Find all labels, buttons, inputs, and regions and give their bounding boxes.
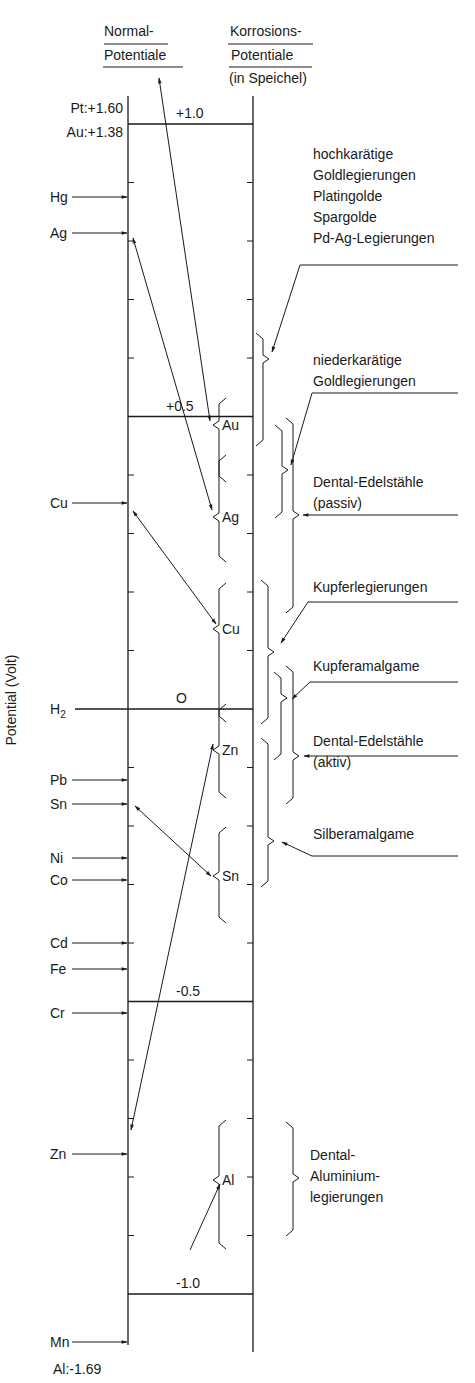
alloy-group-label: Dental- xyxy=(310,1147,355,1163)
scale-label: -1.0 xyxy=(176,1275,200,1291)
element-label-zn: Zn xyxy=(50,1146,66,1162)
element-label-h2: H2 xyxy=(50,701,66,720)
element-label-co: Co xyxy=(50,872,68,888)
leader-silberamalgame xyxy=(282,842,458,856)
header-normal-potentiale: Normal- Potentiale xyxy=(103,23,183,67)
connection-ag xyxy=(133,238,212,510)
alloy-group-label: Dental-Edelstähle xyxy=(313,474,424,490)
brace-alloy-group-7 xyxy=(286,1122,299,1236)
alloy-group-label: Dental-Edelstähle xyxy=(313,733,424,749)
alloy-group-label: Goldlegierungen xyxy=(313,167,416,183)
connection-au xyxy=(159,78,210,421)
alloy-group-label: niederkarätige xyxy=(313,352,402,368)
connection-cu xyxy=(133,511,216,624)
header-korrosion-line3: (in Speichel) xyxy=(229,70,307,86)
label-au: Au:+1.38 xyxy=(67,124,124,140)
scale-label: -0.5 xyxy=(176,983,200,999)
element-label-cu: Cu xyxy=(50,495,68,511)
brace-alloy-group-1 xyxy=(275,425,288,518)
diagram-dynamic-layer: +1.0+0.5O-0.5-1.0HgAgCuH2PbSnNiCoCdFeCrZ… xyxy=(50,78,458,1352)
alloy-group-label: Platingolde xyxy=(313,188,382,204)
alloy-group-label: (passiv) xyxy=(313,495,362,511)
header-normal-line1: Normal- xyxy=(104,23,154,39)
alloy-group-label: Pd-Ag-Legierungen xyxy=(313,230,434,246)
brace-alloy-group-0 xyxy=(256,333,269,446)
alloy-group-label: Silberamalgame xyxy=(313,826,414,842)
galvanic-potential-diagram: Normal- Potentiale Korrosions- Potential… xyxy=(0,0,475,1383)
element-label-cr: Cr xyxy=(50,1005,65,1021)
alloy-group-label: Spargolde xyxy=(313,209,377,225)
corrosion-label-al: Al xyxy=(222,1172,234,1188)
diagram-canvas: Normal- Potentiale Korrosions- Potential… xyxy=(0,0,475,1383)
element-label-ni: Ni xyxy=(50,850,63,866)
corrosion-label-ag: Ag xyxy=(222,509,239,525)
brace-alloy-group-6 xyxy=(261,738,274,887)
header-korrosion-line2: Potentiale xyxy=(231,47,293,63)
alloy-group-label: Aluminium- xyxy=(310,1168,380,1184)
brace-alloy-group-4 xyxy=(274,672,287,760)
brace-alloy-group-5 xyxy=(286,666,299,804)
label-al: Al:-1.69 xyxy=(53,1361,101,1377)
alloy-group-label: Kupferlegierungen xyxy=(313,579,427,595)
corrosion-label-au: Au xyxy=(222,417,239,433)
brace-alloy-group-2 xyxy=(286,418,299,613)
leader-kupferamalgame xyxy=(292,682,458,699)
element-label-fe: Fe xyxy=(50,961,67,977)
connection-al xyxy=(190,1184,220,1250)
header-korrosion-line1: Korrosions- xyxy=(230,23,302,39)
element-label-cd: Cd xyxy=(50,935,68,951)
header-normal-line2: Potentiale xyxy=(104,47,166,63)
scale-label: O xyxy=(176,690,187,706)
scale-label: +1.0 xyxy=(176,105,204,121)
element-label-pb: Pb xyxy=(50,772,67,788)
element-label-hg: Hg xyxy=(50,189,68,205)
alloy-group-label: Kupferamalgame xyxy=(313,658,420,674)
corrosion-label-cu: Cu xyxy=(222,621,240,637)
connection-zn xyxy=(131,744,213,1130)
corrosion-label-sn: Sn xyxy=(222,868,239,884)
connection-sn xyxy=(135,806,211,876)
alloy-group-label: legierungen xyxy=(310,1189,383,1205)
alloy-group-label: Goldlegierungen xyxy=(313,373,416,389)
axis-label-potential: Potential (Volt) xyxy=(3,654,19,745)
element-label-sn: Sn xyxy=(50,796,67,812)
alloy-group-label: hochkarätige xyxy=(313,146,393,162)
leader-hochkaratig xyxy=(272,265,458,352)
brace-corrosion-cu xyxy=(213,583,226,722)
leader-kupferlegierungen xyxy=(281,602,458,643)
leader-niederkaratig xyxy=(291,393,458,465)
brace-alloy-group-3 xyxy=(261,580,274,724)
element-label-mn: Mn xyxy=(50,1334,69,1350)
label-pt: Pt:+1.60 xyxy=(70,100,123,116)
corrosion-label-zn: Zn xyxy=(222,742,238,758)
header-korrosions-potentiale: Korrosions- Potentiale (in Speichel) xyxy=(228,23,313,86)
element-label-ag: Ag xyxy=(50,225,67,241)
